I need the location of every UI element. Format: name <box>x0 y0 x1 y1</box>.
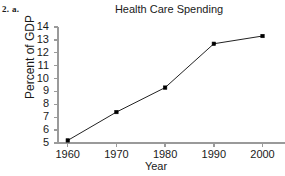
figure-container: 2. a. Health Care Spending Percent of GD… <box>0 0 285 176</box>
chart-data-markers <box>66 34 264 142</box>
chart-axes <box>54 27 285 147</box>
chart-plot-area <box>0 0 285 176</box>
